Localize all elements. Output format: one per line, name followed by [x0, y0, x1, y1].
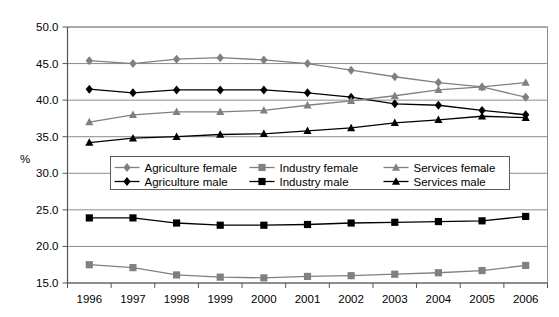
- marker-square: [522, 262, 529, 269]
- marker-diamond: [173, 55, 180, 64]
- marker-square: [129, 214, 136, 221]
- marker-square: [260, 274, 267, 281]
- marker-square: [391, 219, 398, 226]
- marker-square: [522, 213, 529, 220]
- marker-square: [217, 274, 224, 281]
- series-industry-female: [86, 261, 530, 281]
- y-tick-label: 30.0: [36, 167, 58, 179]
- marker-diamond: [86, 85, 93, 94]
- marker-diamond: [260, 55, 267, 64]
- x-tick-label: 2001: [295, 293, 321, 305]
- chart-container: 50.045.040.035.030.025.020.015.019961997…: [0, 0, 559, 317]
- marker-square: [435, 269, 442, 276]
- y-axis-title: %: [20, 153, 30, 165]
- marker-diamond: [129, 88, 136, 97]
- marker-diamond: [391, 99, 398, 108]
- marker-square: [478, 267, 485, 274]
- marker-diamond: [304, 88, 311, 97]
- marker-square: [173, 271, 180, 278]
- marker-diamond: [347, 66, 354, 75]
- y-tick-label: 25.0: [36, 204, 58, 216]
- marker-square: [304, 221, 311, 228]
- marker-diamond: [260, 85, 267, 94]
- line-chart: 50.045.040.035.030.025.020.015.019961997…: [0, 0, 559, 317]
- marker-square: [86, 214, 93, 221]
- y-tick-label: 40.0: [36, 94, 58, 106]
- legend-label: Industry female: [280, 162, 359, 174]
- marker-diamond: [391, 72, 398, 81]
- marker-square: [129, 264, 136, 271]
- x-tick-label: 2003: [382, 293, 408, 305]
- marker-square: [435, 218, 442, 225]
- marker-diamond: [217, 85, 224, 94]
- marker-square: [348, 272, 355, 279]
- x-tick-label: 1999: [207, 293, 233, 305]
- y-tick-label: 35.0: [36, 131, 58, 143]
- legend-label: Industry male: [280, 176, 349, 188]
- x-tick-label: 1998: [164, 293, 190, 305]
- x-tick-label: 1996: [77, 293, 103, 305]
- x-tick-label: 2005: [469, 293, 495, 305]
- x-tick-label: 2000: [251, 293, 277, 305]
- marker-diamond: [217, 53, 224, 62]
- legend-label: Services male: [414, 176, 486, 188]
- legend-label: Services female: [414, 162, 496, 174]
- marker-square: [258, 178, 265, 185]
- marker-square: [258, 164, 265, 171]
- marker-square: [173, 219, 180, 226]
- marker-triangle: [522, 78, 530, 86]
- marker-square: [348, 219, 355, 226]
- marker-diamond: [173, 85, 180, 94]
- marker-square: [304, 273, 311, 280]
- marker-diamond: [435, 101, 442, 110]
- y-tick-label: 45.0: [36, 58, 58, 70]
- marker-square: [86, 261, 93, 268]
- marker-square: [260, 222, 267, 229]
- x-tick-label: 2006: [513, 293, 539, 305]
- y-tick-label: 20.0: [36, 240, 58, 252]
- marker-square: [391, 271, 398, 278]
- x-tick-label: 2004: [426, 293, 452, 305]
- x-tick-label: 2002: [338, 293, 364, 305]
- x-tick-label: 1997: [120, 293, 146, 305]
- legend-label: Agriculture female: [145, 162, 238, 174]
- series-industry-male: [86, 213, 530, 229]
- legend: Agriculture femaleIndustry femaleService…: [111, 157, 510, 190]
- marker-square: [478, 217, 485, 224]
- legend-label: Agriculture male: [145, 176, 228, 188]
- marker-diamond: [304, 59, 311, 68]
- marker-diamond: [129, 59, 136, 68]
- series-services-male: [85, 112, 530, 146]
- y-tick-label: 50.0: [36, 21, 58, 33]
- marker-square: [217, 222, 224, 229]
- y-tick-label: 15.0: [36, 277, 58, 289]
